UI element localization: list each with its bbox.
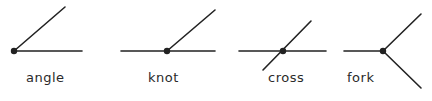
knot-junction: [121, 10, 215, 53]
angle-junction: [12, 7, 82, 53]
cross-junction: [239, 21, 326, 70]
label-angle: angle: [26, 70, 65, 85]
label-cross: cross: [268, 70, 304, 85]
label-knot: knot: [148, 70, 179, 85]
junction-diagram: [0, 0, 432, 101]
label-fork: fork: [347, 70, 374, 85]
